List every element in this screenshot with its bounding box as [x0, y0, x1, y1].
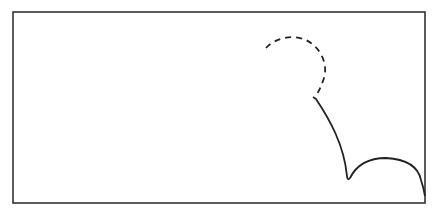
diagram-canvas: [0, 0, 437, 216]
solid-arch-curve: [350, 158, 425, 196]
diagram-frame: [13, 12, 425, 203]
solid-descent-curve: [313, 97, 350, 179]
dashed-arc: [266, 37, 325, 94]
